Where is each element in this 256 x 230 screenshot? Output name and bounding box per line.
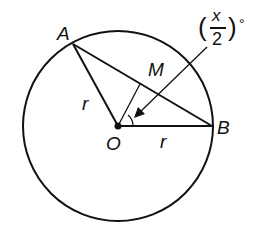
label-r-ob: r: [160, 132, 166, 151]
fraction-denominator: 2: [212, 29, 222, 50]
label-b: B: [217, 118, 230, 137]
label-a: A: [57, 24, 70, 43]
paren-open: (: [198, 12, 207, 43]
degree-symbol: °: [239, 16, 245, 32]
angle-arc: [128, 115, 133, 126]
center-point: [115, 123, 122, 130]
fraction-numerator: x: [212, 6, 221, 26]
label-m: M: [148, 60, 164, 79]
angle-label-x-over-2: ( x 2 ) °: [198, 4, 256, 56]
label-o: O: [106, 134, 121, 153]
label-r-oa: r: [82, 94, 88, 113]
paren-close: ): [228, 12, 237, 43]
geometry-diagram: A M r B O r ( x 2 ) °: [0, 0, 256, 230]
pointer-arrow-line: [138, 47, 207, 114]
segment-om: [118, 84, 140, 126]
